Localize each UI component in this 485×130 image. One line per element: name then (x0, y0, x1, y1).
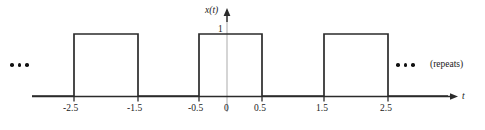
square-wave-trace (32, 34, 448, 96)
ellipsis-dot (396, 63, 400, 67)
x-tick-label-neg0p5: -0.5 (188, 104, 203, 114)
x-tick-label-pos2p5: 2.5 (380, 104, 392, 114)
repeats-note: (repeats) (430, 60, 463, 70)
x-tick-label-zero: 0 (224, 104, 229, 114)
x-tick-label-pos1p5: 1.5 (316, 104, 328, 114)
x-tick-label-pos0p5: 0.5 (254, 104, 266, 114)
amplitude-label: 1 (218, 25, 223, 35)
signal-plot-figure: x(t) 1 t -2.5 -1.5 -0.5 0 0.5 1.5 2.5 (r… (0, 0, 485, 130)
right-ellipsis-icon (396, 63, 415, 67)
x-axis-arrowhead (450, 93, 458, 99)
x-tick-label-neg2p5: -2.5 (63, 104, 78, 114)
ellipsis-dot (10, 63, 14, 67)
ellipsis-dot (25, 63, 29, 67)
left-ellipsis-icon (10, 63, 29, 67)
ellipsis-dot (411, 63, 415, 67)
ellipsis-dot (18, 63, 22, 67)
ellipsis-dot (404, 63, 408, 67)
y-axis-label: x(t) (205, 6, 218, 16)
x-axis-label: t (462, 92, 465, 102)
x-tick-label-neg1p5: -1.5 (127, 104, 142, 114)
